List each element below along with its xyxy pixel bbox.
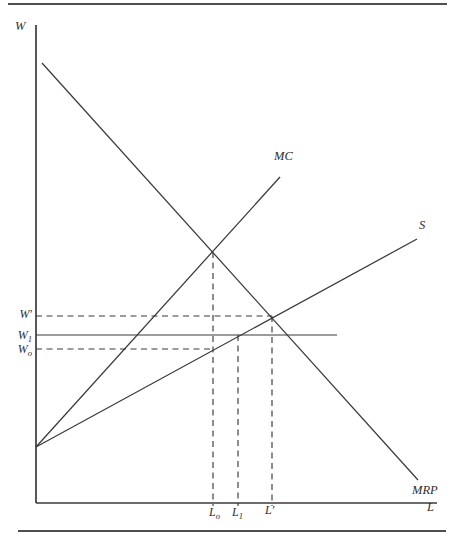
labor-label-lo-sub: o <box>216 511 220 521</box>
diagram-canvas <box>0 0 454 540</box>
wage-label-wo: Wo <box>11 343 32 355</box>
labor-label-lo-base: L <box>209 505 216 519</box>
wage-label-w-prime: W′ <box>11 308 32 320</box>
labor-label-l-prime: L′ <box>265 504 274 516</box>
wage-label-w1: W1 <box>11 329 32 341</box>
mc-curve-label: MC <box>274 150 293 163</box>
textbook-figure-page: W L MC S MRP W′ W1 Wo Lo L1 L′ <box>0 0 454 540</box>
s-curve-label: S <box>419 219 425 232</box>
wage-label-w1-base: W <box>18 328 28 342</box>
mrp-curve <box>42 63 418 480</box>
wage-label-wo-base: W <box>18 342 28 356</box>
labor-label-lo: Lo <box>209 506 220 518</box>
x-axis-label: L <box>427 501 434 514</box>
mrp-curve-label: MRP <box>412 484 438 497</box>
wage-label-wo-sub: o <box>28 348 32 358</box>
labor-label-l1-base: L <box>232 505 239 519</box>
y-axis-label: W <box>15 20 25 33</box>
mc-curve <box>36 177 280 447</box>
labor-label-l1-sub: 1 <box>239 511 243 521</box>
labor-label-l1: L1 <box>232 506 243 518</box>
